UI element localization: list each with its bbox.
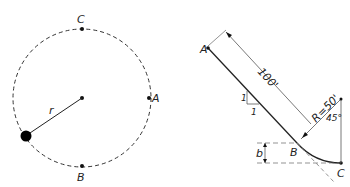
label-b-drop: b (256, 147, 263, 160)
label-angle: 45° (326, 113, 342, 123)
label-r: r (49, 104, 55, 117)
label-run: 1 (251, 107, 257, 117)
mass-ball (21, 131, 32, 142)
incline-path (208, 48, 297, 143)
label-a: A (199, 43, 208, 56)
point-a (147, 96, 151, 100)
arc-path (297, 143, 341, 163)
right-figure: 100' R=50' 45° 1 1 A B C b (199, 30, 345, 182)
label-rise: 1 (241, 93, 247, 103)
label-a: A (151, 92, 160, 105)
slope-triangle (247, 91, 259, 104)
arrow-head (263, 159, 267, 163)
left-figure: C A B r (13, 13, 160, 184)
label-c: C (337, 167, 345, 180)
label-b: B (290, 146, 298, 159)
label-100: 100' (255, 65, 281, 91)
radius-line (27, 98, 82, 135)
extension-line-a (208, 30, 226, 46)
arrow-head (263, 143, 267, 147)
diagram-canvas: C A B r 100' R=50' 45° 1 1 (0, 0, 350, 187)
point-c (80, 27, 84, 31)
label-c: C (77, 13, 85, 26)
label-b: B (77, 171, 85, 184)
tangent-extension (297, 143, 334, 182)
point-b (80, 164, 84, 168)
